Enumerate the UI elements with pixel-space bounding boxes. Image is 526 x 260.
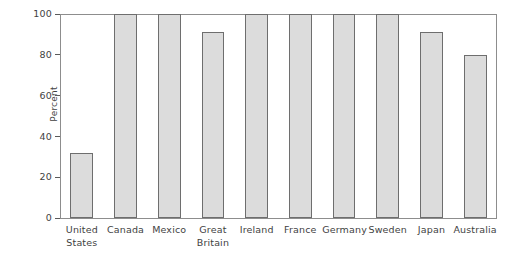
- y-axis-ticks: 020406080100: [0, 0, 60, 260]
- bar: [464, 55, 487, 218]
- bar: [376, 14, 399, 218]
- y-axis-tick-label: 20: [40, 172, 53, 182]
- bar: [420, 32, 443, 218]
- x-axis-category-label: Japan: [410, 224, 454, 237]
- bar: [289, 14, 312, 218]
- x-axis-category-label: UnitedStates: [60, 224, 104, 249]
- x-axis-category-label: Mexico: [147, 224, 191, 237]
- bar: [114, 14, 137, 218]
- x-axis-label-line: Britain: [191, 237, 235, 250]
- bar: [202, 32, 225, 218]
- bar: [158, 14, 181, 218]
- x-axis-category-label: Canada: [104, 224, 148, 237]
- x-axis-label-line: Sweden: [366, 224, 410, 237]
- x-axis-category-label: France: [279, 224, 323, 237]
- x-axis-label-line: Australia: [453, 224, 497, 237]
- x-axis-category-label: GreatBritain: [191, 224, 235, 249]
- x-axis-category-label: Ireland: [235, 224, 279, 237]
- bar: [333, 14, 356, 218]
- x-axis-label-line: States: [60, 237, 104, 250]
- y-axis-tick-label: 80: [40, 50, 53, 60]
- y-axis-tick-label: 100: [33, 9, 52, 19]
- bar-chart: Percent 020406080100 UnitedStatesCanadaM…: [0, 0, 526, 260]
- x-axis-category-label: Sweden: [366, 224, 410, 237]
- x-axis-label-line: Ireland: [235, 224, 279, 237]
- x-axis-category-label: Australia: [453, 224, 497, 237]
- x-axis-label-line: Japan: [410, 224, 454, 237]
- x-axis-label-line: United: [60, 224, 104, 237]
- bar: [245, 14, 268, 218]
- bars-layer: [60, 14, 497, 219]
- x-axis-labels: UnitedStatesCanadaMexicoGreatBritainIrel…: [60, 224, 497, 258]
- x-axis-label-line: Great: [191, 224, 235, 237]
- x-axis-label-line: Canada: [104, 224, 148, 237]
- x-axis-label-line: Germany: [322, 224, 366, 237]
- x-axis-category-label: Germany: [322, 224, 366, 237]
- bar: [70, 153, 93, 218]
- y-axis-tick-label: 60: [40, 91, 53, 101]
- y-axis-tick-label: 0: [46, 213, 52, 223]
- x-axis-label-line: Mexico: [147, 224, 191, 237]
- y-axis-tick-label: 40: [40, 132, 53, 142]
- x-axis-label-line: France: [279, 224, 323, 237]
